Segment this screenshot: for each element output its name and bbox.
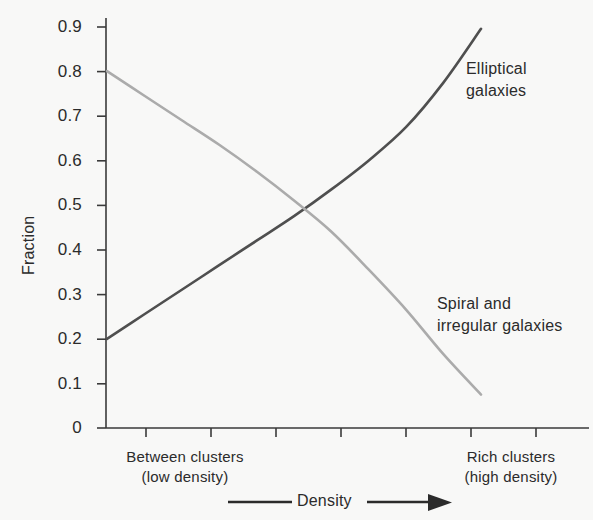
series-line-spiral-irregular-galaxies <box>107 71 481 394</box>
annotation-spiral-line2: irregular galaxies <box>437 317 562 334</box>
x-category-right-line2: (high density) <box>465 468 558 485</box>
y-axis-title: Fraction <box>20 216 38 275</box>
annotation-elliptical-line2: galaxies <box>466 82 526 99</box>
annotation-spiral-irregular-galaxies: Spiral and irregular galaxies <box>437 293 562 336</box>
x-category-right-line1: Rich clusters <box>467 448 555 465</box>
chart-figure: 0.9 0.8 0.7 0.6 0.5 0.4 0.3 0.2 0.1 0 Fr… <box>0 0 593 520</box>
x-category-right: Rich clusters (high density) <box>436 447 586 488</box>
x-category-left-line2: (low density) <box>142 468 229 485</box>
y-tick-label-0-3: 0.3 <box>22 285 82 305</box>
x-axis-title: Density <box>297 492 352 510</box>
x-axis-ticks <box>146 428 536 437</box>
x-category-left-line1: Between clusters <box>126 448 243 465</box>
y-tick-label-0: 0 <box>22 418 82 438</box>
y-tick-label-0-7: 0.7 <box>22 106 82 126</box>
annotation-elliptical-galaxies: Elliptical galaxies <box>466 58 527 101</box>
series-line-elliptical-galaxies <box>107 29 481 339</box>
y-tick-label-0-6: 0.6 <box>22 151 82 171</box>
y-axis-ticks <box>97 27 106 428</box>
y-tick-label-0-8: 0.8 <box>22 62 82 82</box>
annotation-elliptical-line1: Elliptical <box>466 60 527 77</box>
annotation-spiral-line1: Spiral and <box>437 295 511 312</box>
y-tick-label-0-5: 0.5 <box>22 195 82 215</box>
x-category-left: Between clusters (low density) <box>110 447 260 488</box>
y-tick-label-0-9: 0.9 <box>22 17 82 37</box>
y-tick-label-0-2: 0.2 <box>22 329 82 349</box>
y-tick-label-0-1: 0.1 <box>22 374 82 394</box>
